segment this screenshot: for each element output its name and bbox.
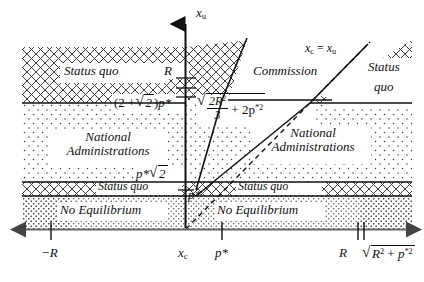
level-label-pstar-origin: p* — [188, 188, 201, 202]
x-tick-label-pstar: p* — [215, 246, 228, 260]
region-label-status-quo-top-right-line1: Status — [368, 60, 400, 74]
region-label-national-admin-right: National Administrations — [253, 126, 373, 153]
level-label-two-plus-sqrt2-pstar: (2 +2)p* — [114, 94, 171, 110]
region-label-status-quo-band-right: Status quo — [238, 180, 288, 193]
region-label-no-equilibrium-left: No Equilibrium — [60, 203, 141, 217]
x-tick-label-sqrt-R2-plus-p2: R2 + p*2 — [362, 245, 415, 261]
region-label-status-quo-top-right-line2: quo — [374, 80, 394, 94]
curve-label-identity-line: xc = xu — [305, 42, 336, 57]
x-tick-label-R: R — [339, 246, 347, 260]
region-status-quo-top-axis-wedge — [185, 40, 247, 100]
region-label-national-admin-left: National Administrations — [48, 130, 168, 157]
no-equilibrium-dense-patch-right — [360, 196, 412, 230]
region-label-no-equilibrium-right: No Equilibrium — [217, 203, 298, 217]
figure-canvas: xu Status quo R (2 +2)p* 2R23 + 2p*2 Com… — [0, 0, 424, 282]
curve-label-sqrt-expression: 2R23 + 2p*2 — [197, 93, 265, 122]
level-label-R: R — [164, 64, 172, 78]
y-axis-label: xu — [196, 6, 206, 22]
x-tick-label-xc: xc — [178, 246, 188, 262]
curve-label-commission: Commission — [253, 64, 317, 78]
region-label-status-quo-band-left: Status quo — [98, 180, 148, 193]
x-tick-label-minus-R: −R — [41, 246, 58, 260]
region-label-status-quo-top-left: Status quo — [64, 64, 119, 78]
